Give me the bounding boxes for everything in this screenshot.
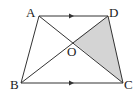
label-d: D [109,5,118,20]
side-ab [21,16,39,83]
label-b: B [10,77,19,92]
label-a: A [26,5,36,20]
trapezoid-diagram: A D O B C [0,0,139,96]
parallel-arrow-icon [69,14,74,19]
parallel-arrow-icon [69,81,74,86]
label-c: C [124,77,133,92]
label-o: O [67,44,76,59]
